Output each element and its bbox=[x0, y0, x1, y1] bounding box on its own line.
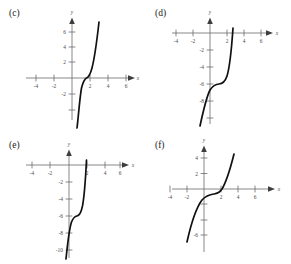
x-tick-label: -4 bbox=[34, 83, 39, 89]
x-tick-label: -2 bbox=[48, 170, 53, 176]
y-tick-label: 2 bbox=[195, 171, 198, 177]
x-tick-label: 2 bbox=[226, 38, 229, 44]
x-axis-label: x bbox=[131, 162, 135, 168]
graph-panel-e: (e) -4 -2 2 4 6 -2 - bbox=[0, 132, 145, 264]
x-tick-label: 6 bbox=[119, 170, 122, 176]
cubic-curve bbox=[77, 22, 99, 128]
cubic-curve bbox=[187, 154, 234, 242]
y-tick-label: 4 bbox=[63, 44, 66, 50]
x-axis-label: x bbox=[277, 186, 281, 192]
y-tick-label: 6 bbox=[63, 29, 66, 35]
x-axis-label: x bbox=[275, 30, 279, 36]
x-tick-label: -4 bbox=[30, 170, 35, 176]
x-tick-label: 2 bbox=[220, 194, 223, 200]
y-axis-arrow-icon bbox=[69, 18, 75, 25]
x-tick-label: 4 bbox=[107, 83, 110, 89]
x-axis-arrow-icon bbox=[268, 186, 275, 192]
y-tick-label: -8 bbox=[59, 230, 64, 236]
x-tick-label: 4 bbox=[104, 170, 107, 176]
x-tick-label: 6 bbox=[260, 38, 263, 44]
y-axis-arrow-icon bbox=[66, 150, 72, 157]
y-tick-label: -2 bbox=[200, 47, 205, 53]
x-axis-arrow-icon bbox=[266, 30, 273, 36]
x-tick-label: 4 bbox=[237, 194, 240, 200]
graph-panel-c: (c) -4 -2 2 4 6 6 4 bbox=[0, 0, 145, 132]
y-tick-label: 2 bbox=[63, 59, 66, 65]
plot-c: -4 -2 2 4 6 6 4 2 -2 x y bbox=[0, 0, 145, 132]
x-tick-label: 6 bbox=[254, 194, 257, 200]
y-axis-label: y bbox=[67, 141, 71, 147]
y-tick-label: -4 bbox=[59, 196, 64, 202]
plot-f: -4 -2 2 4 6 4 2 -6 x y bbox=[146, 132, 291, 264]
y-axis-label: y bbox=[70, 9, 74, 15]
y-tick-label: 4 bbox=[195, 155, 198, 161]
y-tick-label: -2 bbox=[59, 179, 64, 185]
x-tick-label: 6 bbox=[125, 83, 128, 89]
x-tick-label: -2 bbox=[52, 83, 57, 89]
x-tick-label: -4 bbox=[174, 38, 179, 44]
y-tick-label: -4 bbox=[200, 64, 205, 70]
plot-d: -4 -2 2 4 6 -2 -4 -6 -8 x y bbox=[146, 0, 291, 132]
y-tick-label: -2 bbox=[62, 91, 67, 97]
y-tick-label: -10 bbox=[56, 247, 63, 253]
y-tick-label: -6 bbox=[194, 232, 199, 238]
y-axis-label: y bbox=[202, 137, 206, 143]
x-tick-label: -2 bbox=[185, 194, 190, 200]
y-axis-label: y bbox=[208, 9, 212, 15]
y-tick-label: -6 bbox=[59, 213, 64, 219]
figure-sheet: (c) -4 -2 2 4 6 6 4 bbox=[0, 0, 291, 264]
x-tick-label: 4 bbox=[243, 38, 246, 44]
y-tick-label: -8 bbox=[200, 98, 205, 104]
x-tick-label: -2 bbox=[191, 38, 196, 44]
y-axis-arrow-icon bbox=[201, 146, 207, 153]
x-axis-label: x bbox=[136, 75, 140, 81]
x-tick-label: 2 bbox=[89, 83, 92, 89]
plot-e: -4 -2 2 4 6 -2 -4 -6 -8 -10 x y bbox=[0, 132, 145, 264]
y-tick-label: -6 bbox=[200, 81, 205, 87]
x-tick-label: -4 bbox=[168, 194, 173, 200]
x-axis-arrow-icon bbox=[122, 162, 129, 168]
x-axis-arrow-icon bbox=[128, 75, 135, 81]
graph-panel-d: (d) -4 -2 2 4 6 -2 - bbox=[146, 0, 291, 132]
y-axis-arrow-icon bbox=[207, 18, 213, 25]
graph-panel-f: (f) -4 -2 2 4 6 4 2 bbox=[146, 132, 291, 264]
